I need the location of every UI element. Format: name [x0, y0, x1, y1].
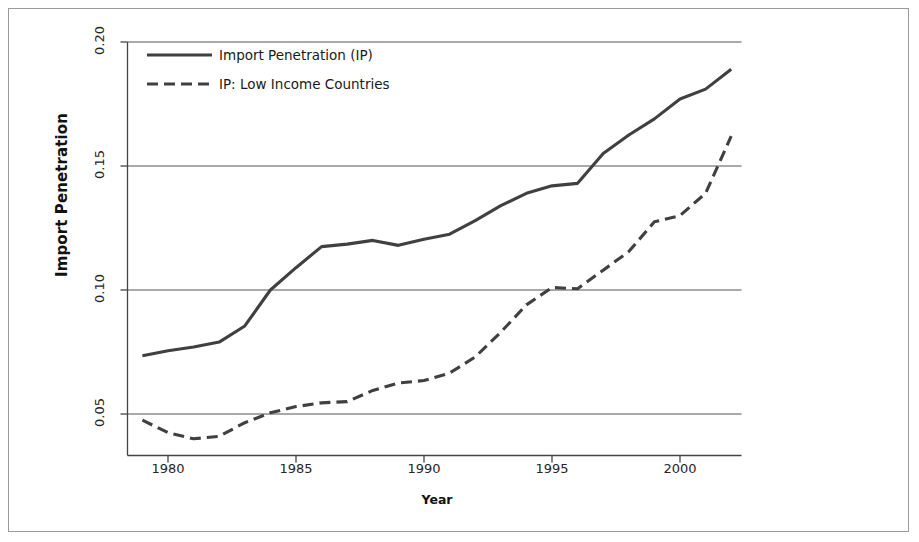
tick-marks-group	[121, 42, 681, 463]
series-line-1	[142, 136, 731, 439]
data-series-group	[142, 69, 731, 439]
y-tick-label-1: 0.10	[91, 267, 106, 311]
x-tick-label-3: 1995	[522, 461, 582, 476]
x-tick-label-4: 2000	[650, 461, 710, 476]
x-tick-label-1: 1985	[266, 461, 326, 476]
y-tick-label-3: 0.20	[91, 19, 106, 63]
x-tick-label-2: 1990	[394, 461, 454, 476]
y-tick-label-2: 0.15	[91, 143, 106, 187]
x-tick-label-0: 1980	[138, 461, 198, 476]
series-line-0	[142, 69, 731, 355]
legend-item-label-0: Import Penetration (IP)	[219, 47, 373, 63]
y-tick-label-0: 0.05	[91, 391, 106, 435]
axis-lines-group	[128, 42, 742, 456]
legend-item-label-1: IP: Low Income Countries	[219, 76, 390, 92]
y-axis-title: Import Penetration	[53, 95, 71, 295]
x-axis-title: Year	[347, 492, 527, 507]
legend-swatches-group	[147, 55, 212, 84]
gridlines-group	[128, 42, 742, 414]
figure-canvas: Import Penetration Year 0.050.100.150.20…	[0, 0, 919, 542]
